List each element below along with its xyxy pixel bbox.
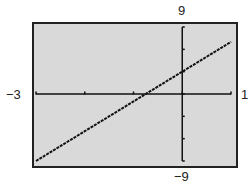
xmax-label: 1 bbox=[241, 88, 248, 101]
plot-frame bbox=[33, 23, 237, 167]
xmin-label: −3 bbox=[6, 88, 21, 101]
graph-window bbox=[0, 0, 252, 185]
ymax-label: 9 bbox=[178, 4, 185, 17]
ymin-label: −9 bbox=[174, 170, 189, 183]
